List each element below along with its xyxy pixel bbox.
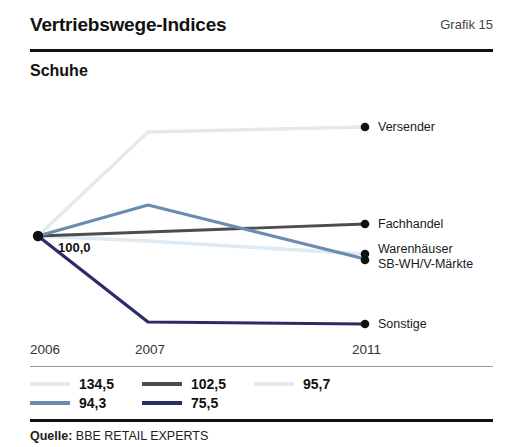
figure-number: Grafik 15 [440,14,493,36]
source-text: BBE RETAIL EXPERTS [76,429,208,443]
legend-value: 75,5 [191,395,218,411]
endpoint-dot-fachhandel [361,220,370,229]
series-label-fachhandel: Fachhandel [378,217,443,231]
series-line-fachhandel [38,224,365,236]
endpoint-dot-sb-wh [361,256,370,265]
origin-dot [33,231,43,241]
origin-value-label: 100,0 [58,240,91,255]
legend-divider [30,419,493,422]
legend-value: 134,5 [79,376,114,392]
chart-page: Vertriebswege-Indices Grafik 15 Schuhe 1… [0,14,523,447]
endpoint-dot-sonstige [361,320,370,329]
endpoint-dot-versender [361,123,370,132]
x-tick-2006: 2006 [30,342,60,357]
legend-swatch-icon [30,382,70,386]
axis-divider [30,366,493,367]
series-label-warenhaeuser: Warenhäuser [378,242,453,257]
legend-item-versender[interactable]: 134,5 [30,376,142,392]
chart-subtitle: Schuhe [30,61,493,80]
legend-swatch-icon [142,401,182,405]
title-divider [30,49,493,52]
legend-value: 95,7 [303,376,330,392]
legend-row-1: 134,5 102,5 95,7 [30,374,493,393]
x-axis: 2006 2007 2011 [30,342,493,362]
legend-swatch-icon [254,382,294,386]
chart-legend: 134,5 102,5 95,7 94,3 75,5 [30,374,493,412]
legend-value: 102,5 [191,376,226,392]
page-title: Vertriebswege-Indices [30,14,226,36]
chart-plot-area: 100,0 Versender Fachhandel Warenhäuser S… [30,84,493,346]
legend-row-2: 94,3 75,5 [30,393,493,412]
legend-swatch-icon [142,382,182,386]
series-label-versender: Versender [378,120,435,134]
chart-header: Vertriebswege-Indices Grafik 15 [30,14,493,48]
legend-item-fachhandel[interactable]: 102,5 [142,376,254,392]
x-tick-2011: 2011 [352,342,381,357]
legend-swatch-icon [30,401,70,405]
legend-item-sb-wh[interactable]: 94,3 [30,395,142,411]
legend-item-warenhaeuser[interactable]: 95,7 [254,376,364,392]
legend-value: 94,3 [79,395,106,411]
source-note: Quelle: BBE RETAIL EXPERTS [30,429,493,443]
legend-item-sonstige[interactable]: 75,5 [142,395,254,411]
source-label: Quelle: [30,429,72,443]
x-tick-2007: 2007 [135,342,165,357]
series-label-sonstige: Sonstige [378,317,427,331]
series-label-sb-wh: SB-WH/V-Märkte [378,257,473,272]
